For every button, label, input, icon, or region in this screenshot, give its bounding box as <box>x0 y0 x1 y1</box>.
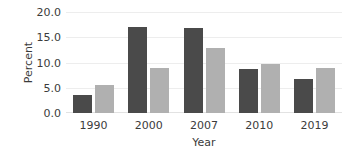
bar[interactable] <box>239 69 258 113</box>
bar[interactable] <box>184 28 203 113</box>
bar[interactable] <box>128 27 147 113</box>
plot-area <box>66 12 342 113</box>
bar[interactable] <box>150 68 169 113</box>
bar[interactable] <box>95 85 114 113</box>
x-axis-tick-label: 2019 <box>287 118 342 134</box>
y-axis-tick-label: 5.0 <box>33 83 61 94</box>
y-axis-tick-labels: 0.05.010.015.020.0 <box>33 0 61 157</box>
y-axis-tick-label: 20.0 <box>33 7 61 18</box>
bar[interactable] <box>73 95 92 113</box>
bar[interactable] <box>316 68 335 113</box>
y-axis-tick-label: 0.0 <box>33 108 61 119</box>
bar-group <box>287 12 342 113</box>
x-axis-title: Year <box>66 136 342 150</box>
x-axis-tick-label: 1990 <box>66 118 121 134</box>
bar-group <box>176 12 231 113</box>
y-axis-tick-label: 15.0 <box>33 32 61 43</box>
x-axis-tick-labels: 19902000200720102019 <box>66 118 342 134</box>
bar[interactable] <box>206 48 225 113</box>
x-axis-tick-label: 2010 <box>232 118 287 134</box>
bar-group <box>232 12 287 113</box>
bar-groups <box>66 12 342 113</box>
bar-group <box>66 12 121 113</box>
x-axis-tick-label: 2000 <box>121 118 176 134</box>
bar[interactable] <box>294 79 313 113</box>
bar[interactable] <box>261 64 280 113</box>
x-axis-tick-label: 2007 <box>176 118 231 134</box>
bar-chart: Percent 0.05.010.015.020.0 1990200020072… <box>0 0 348 157</box>
bar-group <box>121 12 176 113</box>
y-axis-tick-label: 10.0 <box>33 58 61 69</box>
